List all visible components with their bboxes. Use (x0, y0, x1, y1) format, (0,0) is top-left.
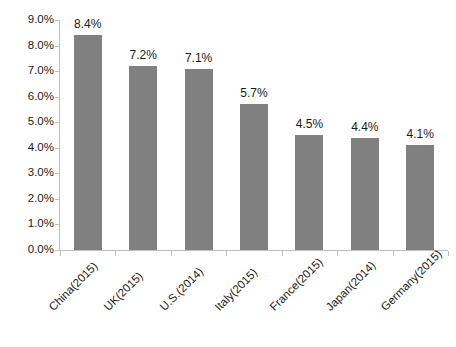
x-axis-category-label: Japan(2014) (323, 259, 377, 313)
bar-chart: 0.0%1.0%2.0%3.0%4.0%5.0%6.0%7.0%8.0%9.0%… (0, 0, 456, 347)
x-axis-category-label: Germany(2015) (379, 248, 444, 313)
x-axis-category-labels: China(2015)UK(2015)U.S.(2014)Italy(2015)… (0, 0, 456, 347)
x-axis-category-label: France(2015) (268, 256, 325, 313)
x-axis-category-label: U.S.(2014) (157, 265, 205, 313)
x-axis-category-label: Italy(2015) (213, 266, 260, 313)
x-axis-category-label: UK(2015) (102, 270, 145, 313)
x-axis-category-label: China(2015) (46, 260, 99, 313)
